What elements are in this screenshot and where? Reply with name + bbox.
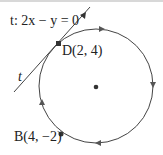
arrow-left-icon: [39, 99, 45, 105]
point-d-label: D(2, 4): [62, 43, 103, 59]
line-name-label: t: [18, 69, 23, 84]
center-point: [94, 85, 99, 90]
point-b-label: B(4, −2): [14, 129, 62, 145]
circle-tangent-diagram: t: 2x − y = 0 D(2, 4) t B(4, −2): [0, 0, 163, 155]
arrow-top-icon: [99, 26, 105, 32]
arrow-bottom-icon: [95, 140, 101, 146]
line-arrow-icon: [80, 12, 86, 19]
arrow-right-icon: [150, 82, 156, 88]
point-d: [56, 41, 61, 46]
line-equation-label: t: 2x − y = 0: [10, 13, 79, 28]
